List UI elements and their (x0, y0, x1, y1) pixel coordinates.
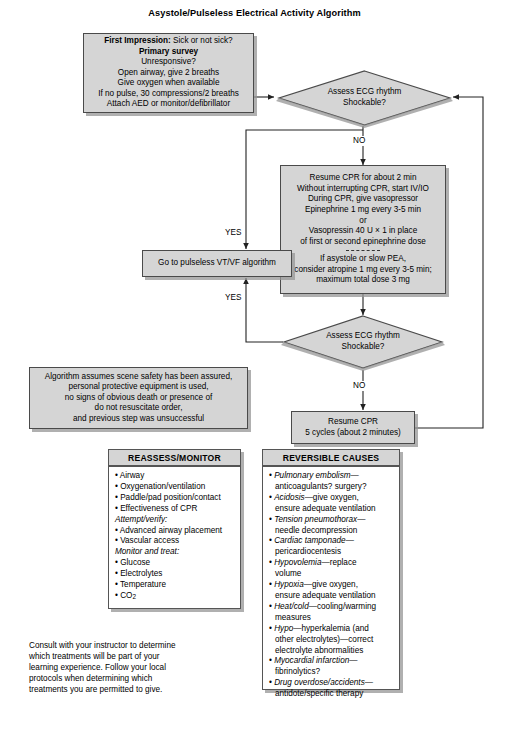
reassess-monitor-panel: • Airway • Oxygenation/ventilation • Pad… (108, 466, 241, 609)
algorithm-assumptions-box: Algorithm assumes scene safety has been … (29, 367, 248, 429)
section-divider (346, 250, 380, 251)
list-item-cont: anticoagulants? surgery? (269, 482, 394, 493)
list-item-cont: volume (269, 569, 394, 580)
list-item: • Drug overdose/accidents— (269, 678, 394, 689)
cpr-line-6: of first or second epinephrine dose (300, 237, 426, 248)
first-impression-line-1: Primary survey (139, 47, 198, 58)
cpr-line-0: Resume CPR for about 2 min (310, 173, 417, 184)
decision-2-line-1: Shockable? (326, 342, 400, 353)
assess-ecg-rhythm-decision-2: Assess ECG rhythm Shockable? (281, 313, 445, 371)
reassess-monitor-header: REASSESS/MONITOR (108, 449, 241, 466)
first-impression-line-4: Give oxygen when available (118, 78, 220, 89)
cpr-line-2: During CPR, give vasopressor (308, 194, 418, 205)
list-item: • Hypovolemia—replace (269, 558, 394, 569)
first-impression-box: First Impression: Sick or not sick? Prim… (83, 33, 254, 113)
edge-label-yes-1: YES (224, 228, 242, 238)
list-item: • Acidosis—give oxygen, (269, 493, 394, 504)
list-item-cont: fibrinolytics? (269, 667, 394, 678)
list-item: • Pulmonary embolism— (269, 471, 394, 482)
vtvf-label: Go to pulseless VT/VF algorithm (158, 258, 276, 269)
decision-1-line-1: Shockable? (328, 98, 402, 109)
cycles-line-0: Resume CPR (328, 417, 378, 428)
edge-label-yes-2: YES (224, 293, 242, 303)
cpr-line-7: If asystole or slow PEA, (320, 254, 406, 265)
list-item: • Hypo—hyperkalemia (and (269, 624, 394, 635)
list-item-cont: ensure adequate ventilation (269, 504, 394, 515)
assumption-line-2: no signs of obvious death or presence of (65, 393, 212, 404)
list-item: • Myocardial infarction— (269, 656, 394, 667)
list-item: • Glucose (115, 558, 235, 569)
list-item-cont: other electrolytes)—correct (269, 635, 394, 646)
assumption-line-1: personal protective equipment is used, (68, 382, 208, 393)
first-impression-line-3: Open airway, give 2 breaths (118, 68, 219, 79)
edge-label-no-2: NO (352, 381, 366, 391)
instructor-consult-note: Consult with your instructor to determin… (29, 640, 179, 695)
reassess-monitor-header-label: REASSESS/MONITOR (128, 453, 221, 463)
list-item: • Tension pneumothorax— (269, 515, 394, 526)
list-item-cont: antidote/specific therapy (269, 689, 394, 700)
list-item: • Oxygenation/ventilation (115, 482, 235, 493)
assumption-line-3: do not resuscitate order, (95, 403, 183, 414)
page-title: Asystole/Pulseless Electrical Activity A… (0, 8, 509, 18)
reversible-causes-header-label: REVERSIBLE CAUSES (283, 453, 380, 463)
cpr-line-5: Vasopressin 40 U × 1 in place (309, 226, 417, 237)
decision-1-line-0: Assess ECG rhythm (328, 87, 402, 98)
assumption-line-4: and previous step was unsuccessful (73, 414, 204, 425)
decision-2-text: Assess ECG rhythm Shockable? (326, 331, 400, 352)
cpr-line-3: Epinephrine 1 mg every 3-5 min (305, 205, 421, 216)
cpr-line-9: maximum total dose 3 mg (316, 275, 410, 286)
resume-cpr-protocol-box: Resume CPR for about 2 min Without inter… (280, 165, 446, 294)
list-item: • Airway (115, 471, 235, 482)
first-impression-line-5: If no pulse, 30 compressions/2 breaths (98, 89, 239, 100)
list-item: • Heat/cold—cooling/warming (269, 602, 394, 613)
first-impression-line-2: Unresponsive? (141, 57, 196, 68)
list-item: • Electrolytes (115, 569, 235, 580)
reversible-causes-header: REVERSIBLE CAUSES (262, 449, 400, 466)
assess-ecg-rhythm-decision-1: Assess ECG rhythm Shockable? (276, 67, 453, 129)
list-item: • CO2 (115, 591, 235, 602)
list-item-cont: pericardiocentesis (269, 547, 394, 558)
first-impression-line-6: Attach AED or monitor/defibrillator (107, 99, 230, 110)
list-item: • Advanced airway placement (115, 526, 235, 537)
list-subheading: Monitor and treat: (115, 547, 235, 558)
cpr-line-8: consider atropine 1 mg every 3-5 min; (294, 265, 431, 276)
first-impression-line-0: First Impression: Sick or not sick? (104, 36, 232, 47)
list-item: • Paddle/pad position/contact (115, 493, 235, 504)
cpr-line-1: Without interrupting CPR, start IV/IO (297, 184, 429, 195)
go-to-pulseless-vtvf-box: Go to pulseless VT/VF algorithm (142, 250, 292, 277)
co2-subscript: 2 (132, 593, 136, 600)
list-item-cont: electrolyte abnormalities (269, 646, 394, 657)
list-item: • Vascular access (115, 536, 235, 547)
reversible-causes-panel: • Pulmonary embolism— anticoagulants? su… (262, 466, 400, 690)
list-item: • Hypoxia—give oxygen, (269, 580, 394, 591)
decision-1-text: Assess ECG rhythm Shockable? (328, 87, 402, 108)
edge-label-no-1: NO (352, 136, 366, 146)
list-item: • Cardiac tamponade— (269, 536, 394, 547)
algorithm-flowchart-canvas: Asystole/Pulseless Electrical Activity A… (0, 0, 509, 739)
cpr-line-4: or (359, 216, 366, 227)
list-subheading: Attempt/verify: (115, 515, 235, 526)
list-item: • Effectiveness of CPR (115, 504, 235, 515)
list-item-cont: needle decompression (269, 526, 394, 537)
cycles-line-1: 5 cycles (about 2 minutes) (305, 428, 401, 439)
decision-2-line-0: Assess ECG rhythm (326, 331, 400, 342)
resume-cpr-cycles-box: Resume CPR 5 cycles (about 2 minutes) (291, 411, 415, 444)
assumption-line-0: Algorithm assumes scene safety has been … (45, 372, 233, 383)
list-item-cont: ensure adequate ventilation (269, 591, 394, 602)
list-item: • Temperature (115, 580, 235, 591)
list-item-cont: measures (269, 613, 394, 624)
